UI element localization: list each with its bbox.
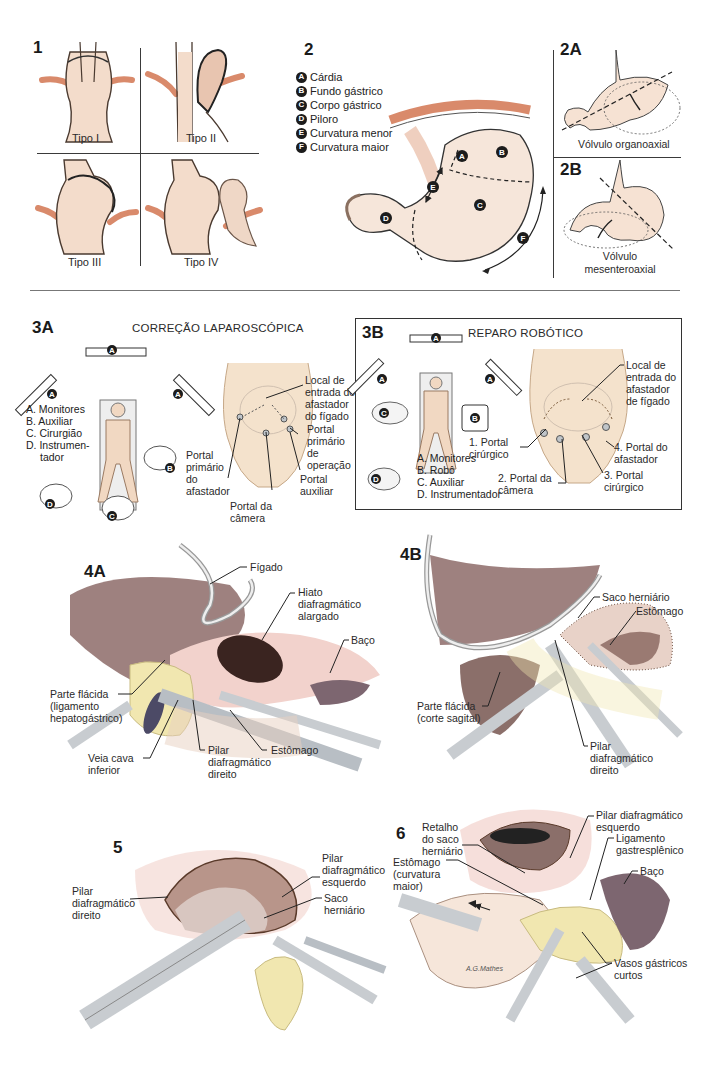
callout-left-crus: Pilar diafragmáticoesquerdo xyxy=(596,809,683,833)
illustrator-signature: A.G.Mathes xyxy=(466,963,503,975)
callout-hernia-sac-flap: Retalhodo sacoherniário xyxy=(422,821,463,857)
callout-gastrosplenic-ligament: Ligamentogastresplênico xyxy=(616,832,684,856)
callout-stomach-greater-curvature: Estômago(curvaturamaior) xyxy=(393,856,440,892)
callout-spleen: Baço xyxy=(640,865,664,877)
6-leader-lines xyxy=(0,0,716,1078)
callout-short-gastric-vessels: Vasos gástricoscurtos xyxy=(614,957,687,981)
